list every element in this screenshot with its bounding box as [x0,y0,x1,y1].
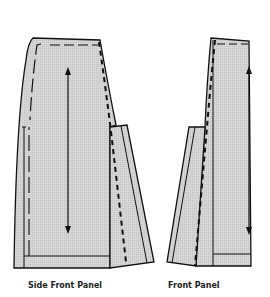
pattern-diagram [0,0,270,297]
front-panel-piece [167,38,252,266]
side-front-panel-label: Side Front Panel [28,281,102,290]
side-front-panel-flap [110,125,154,268]
side-front-panel-piece [14,38,154,268]
front-panel-label: Front Panel [168,281,220,290]
